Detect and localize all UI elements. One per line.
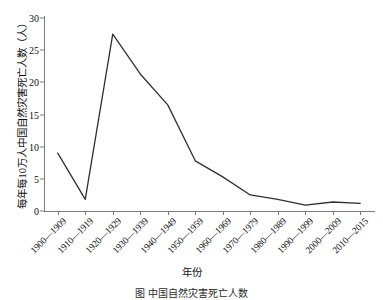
y-axis-title: 每年每10万人中国自然灾害死亡人数（人） xyxy=(18,13,29,213)
x-tick-mark xyxy=(333,211,334,215)
y-tick-mark xyxy=(40,178,44,179)
figure-caption: 图 中国自然灾害死亡人数 xyxy=(0,285,383,300)
plot-area: 0510152025301900—19091910—19191920—19291… xyxy=(44,18,374,211)
series-polyline xyxy=(58,34,361,205)
x-tick-mark xyxy=(360,211,361,215)
x-tick-mark xyxy=(305,211,306,215)
y-tick-mark xyxy=(40,114,44,115)
x-tick-mark xyxy=(113,211,114,215)
x-tick-mark xyxy=(58,211,59,215)
x-tick-mark xyxy=(195,211,196,215)
data-series-line xyxy=(44,18,374,211)
y-tick-mark xyxy=(40,18,44,19)
y-tick-mark xyxy=(40,82,44,83)
x-tick-mark xyxy=(278,211,279,215)
x-tick-mark xyxy=(140,211,141,215)
x-axis-title: 年份 xyxy=(0,264,383,279)
x-tick-mark xyxy=(223,211,224,215)
x-axis-line xyxy=(44,211,375,212)
y-tick-mark xyxy=(40,50,44,51)
x-tick-mark xyxy=(85,211,86,215)
x-tick-mark xyxy=(168,211,169,215)
y-tick-mark xyxy=(40,211,44,212)
y-tick-mark xyxy=(40,146,44,147)
x-tick-mark xyxy=(250,211,251,215)
